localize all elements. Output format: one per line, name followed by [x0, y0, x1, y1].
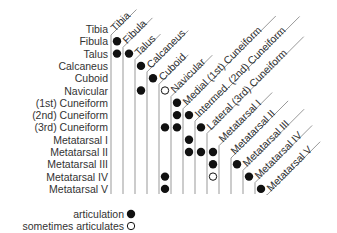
articulation-dot: [173, 111, 181, 119]
articulation-dot: [137, 62, 145, 70]
row-label: Cuboid: [75, 72, 108, 84]
row-label: Navicular: [64, 85, 108, 97]
articulation-dot: [125, 49, 133, 57]
articulation-dot: [245, 172, 253, 180]
sometimes-articulates-dot: [209, 173, 216, 180]
articulation-dot: [185, 136, 193, 144]
articulation-dot: [185, 148, 193, 156]
articulation-dot: [197, 123, 205, 131]
legend-sometimes-label: sometimes articulates: [22, 220, 124, 232]
row-label: Metatarsal III: [47, 158, 108, 170]
articulation-dot: [173, 99, 181, 107]
articulation-dot: [197, 148, 205, 156]
legend-sometimes-icon: [127, 222, 134, 229]
articulation-dot: [173, 123, 181, 131]
row-label: Calcaneus: [58, 60, 108, 72]
articulation-dot: [209, 148, 217, 156]
articulation-dot: [113, 37, 121, 45]
articulation-dot: [161, 172, 169, 180]
articulation-dot: [161, 123, 169, 131]
row-label: (3rd) Cuneiform: [34, 121, 108, 133]
articulation-dot: [161, 185, 169, 193]
articulation-dot: [137, 86, 145, 94]
sometimes-articulates-dot: [161, 87, 168, 94]
column-3: Calcaneus: [144, 27, 188, 194]
articulation-dot: [185, 111, 193, 119]
row-label: Tibia: [86, 23, 108, 35]
legend-articulation-icon: [127, 210, 135, 218]
row-label: (1st) Cuneiform: [36, 97, 108, 109]
articulation-dot: [149, 74, 157, 82]
row-label: Metatarsal IV: [46, 171, 108, 183]
row-label: (2nd) Cuneiform: [32, 109, 108, 121]
row-label: Metatarsal V: [49, 183, 108, 195]
row-label: Fibula: [79, 35, 108, 47]
articulation-dot: [233, 160, 241, 168]
articulation-dot: [113, 49, 121, 57]
row-label: Metatarsal I: [53, 134, 108, 146]
articulation-dot: [257, 185, 265, 193]
articulation-dot: [209, 160, 217, 168]
row-label: Talus: [83, 48, 108, 60]
row-label: Metatarsal II: [50, 146, 108, 158]
legend-articulation-label: articulation: [73, 208, 124, 220]
